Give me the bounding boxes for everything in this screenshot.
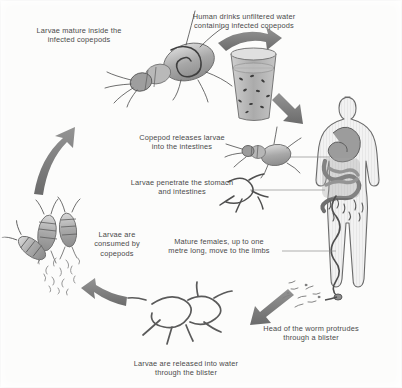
arrow-copepods-to-top	[34, 127, 75, 195]
life-cycle-diagram: Larvae mature inside the infected copepo…	[0, 0, 402, 388]
label-larvae-released: Larvae are released into water through t…	[120, 359, 252, 378]
label-larvae-consumed: Larvae are consumed by copepods	[86, 230, 148, 258]
arrow-glass-to-human	[272, 93, 303, 124]
label-head-protrudes: Head of the worm protrudes through a bli…	[248, 324, 374, 343]
larvae-cloud	[38, 258, 80, 295]
label-larvae-mature: Larvae mature inside the infected copepo…	[16, 26, 142, 45]
label-copepod-releases: Copepod releases larvae into the intesti…	[126, 133, 238, 152]
label-larvae-penetrate: Larvae penetrate the stomach and intesti…	[118, 178, 246, 197]
glass-of-water-icon	[231, 48, 276, 121]
human-body-silhouette	[316, 97, 379, 300]
arrow-worms-to-copepods	[81, 278, 127, 306]
label-human-drinks: Human drinks unfiltered water containing…	[182, 12, 306, 31]
arrow-human-to-worms	[250, 289, 294, 325]
label-mature-females: Mature females, up to one metre long, mo…	[155, 237, 283, 256]
copepod-cluster-icon	[2, 197, 80, 295]
tangled-worms-icon	[128, 282, 232, 344]
